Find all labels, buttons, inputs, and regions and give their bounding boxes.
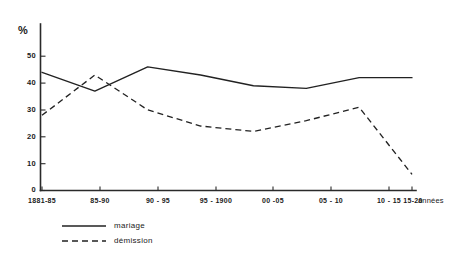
- y-axis-tick-label: 50: [14, 52, 36, 60]
- y-axis-tick-label: 40: [14, 79, 36, 87]
- x-axis-tick-label: 05 - 10: [303, 197, 359, 205]
- legend-label: démission: [114, 236, 153, 245]
- x-axis-tick-label: 85-90: [72, 197, 128, 205]
- y-axis-tick-label: 10: [14, 160, 36, 168]
- x-axis-unit-label: années: [418, 196, 444, 205]
- axes-group: [41, 24, 417, 191]
- y-axis-tick-label: 30: [14, 106, 36, 114]
- legend-item-demission: démission: [62, 233, 242, 248]
- x-axis-tick-label: 1881-85: [14, 197, 70, 205]
- legend-label: mariage: [114, 221, 145, 230]
- x-axis-tick-label: 90 - 95: [130, 197, 186, 205]
- chart-figure: % 50 40 30 20 10 0 1881-8: [0, 0, 462, 256]
- legend-swatch-dashed-icon: [62, 236, 106, 246]
- y-axis-tick-label: 0: [14, 186, 36, 194]
- legend-swatch-solid-icon: [62, 221, 106, 231]
- x-axis-tick-label: 00 -05: [245, 197, 301, 205]
- legend-item-mariage: mariage: [62, 218, 242, 233]
- y-axis-tick-label: 20: [14, 133, 36, 141]
- series-line-mariage: [42, 67, 412, 91]
- x-axis-tick-label: 95 - 1900: [188, 197, 244, 205]
- chart-legend: mariage démission: [62, 218, 242, 248]
